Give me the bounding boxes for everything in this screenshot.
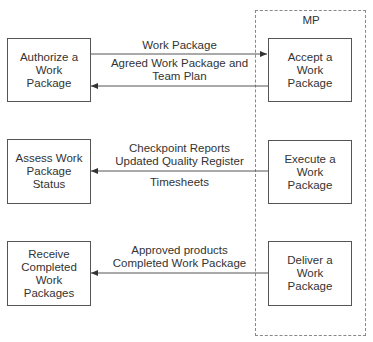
flow-label-approved-products: Approved products xyxy=(91,244,268,257)
accept-work-package-box: Accept a Work Package xyxy=(268,38,352,102)
flow-label-updated-quality-register: Updated Quality Register xyxy=(91,155,268,168)
flow-label-checkpoint-reports: Checkpoint Reports xyxy=(91,142,268,155)
authorize-work-package-box: Authorize a Work Package xyxy=(7,38,91,102)
receive-completed-work-packages-box: Receive Completed Work Packages xyxy=(7,241,91,306)
flow-label-work-package: Work Package xyxy=(91,39,268,52)
flow-label-timesheets: Timesheets xyxy=(91,176,268,189)
assess-work-package-status-label: Assess Work Package Status xyxy=(12,152,86,191)
receive-completed-work-packages-label: Receive Completed Work Packages xyxy=(12,248,86,300)
execute-work-package-box: Execute a Work Package xyxy=(268,140,352,204)
flow-label-agreed-line1: Agreed Work Package and xyxy=(91,57,268,70)
assess-work-package-status-box: Assess Work Package Status xyxy=(7,139,91,204)
execute-work-package-label: Execute a Work Package xyxy=(273,153,347,192)
accept-work-package-label: Accept a Work Package xyxy=(273,51,347,90)
deliver-work-package-label: Deliver a Work Package xyxy=(273,254,347,293)
deliver-work-package-box: Deliver a Work Package xyxy=(268,241,352,306)
authorize-work-package-label: Authorize a Work Package xyxy=(12,51,86,90)
flow-label-completed-work-package: Completed Work Package xyxy=(91,257,268,270)
flow-label-agreed-line2: Team Plan xyxy=(91,70,268,83)
